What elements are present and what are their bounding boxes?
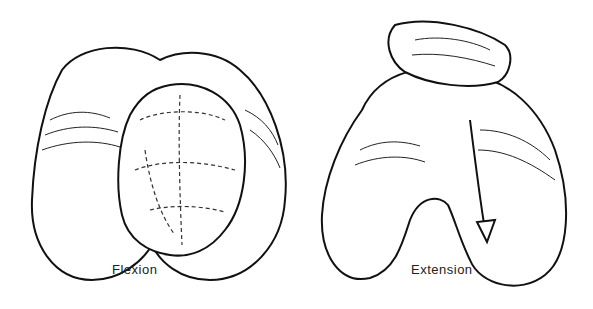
extension-label: Extension [411, 262, 473, 277]
femur-extension [322, 68, 566, 285]
knee-illustration [0, 0, 593, 309]
flexion-label: Flexion [112, 262, 157, 277]
